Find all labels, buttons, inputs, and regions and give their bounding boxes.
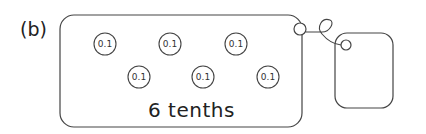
coin-label: 0.1 — [163, 39, 177, 49]
caption: 6 tenths — [148, 98, 235, 122]
main-box — [60, 15, 102, 127]
tenths-frame — [60, 15, 102, 127]
connector-circle-right — [341, 40, 351, 50]
coin-label: 0.1 — [229, 39, 243, 49]
coin-label: 0.1 — [98, 39, 112, 49]
coin-label: 0.1 — [261, 72, 275, 82]
coin-label: 0.1 — [196, 72, 210, 82]
coin-group: 0.10.10.10.10.10.1 — [94, 33, 279, 88]
spacer — [60, 15, 102, 127]
coin-label: 0.1 — [132, 72, 146, 82]
connector-circle-left — [294, 23, 306, 35]
